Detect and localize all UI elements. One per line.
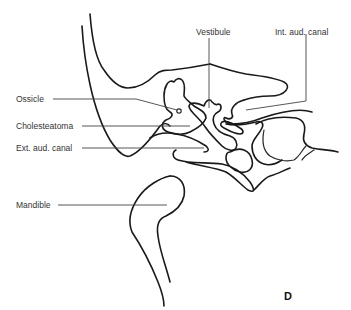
- label-int-aud-canal: Int. aud. canal: [275, 28, 328, 37]
- leader-ossicle: [53, 99, 177, 110]
- lower-bony-wall: [150, 133, 208, 152]
- leader-int-aud-canal: [246, 34, 306, 110]
- label-ossicle: Ossicle: [16, 95, 44, 104]
- int-aud-canal-shape: [224, 100, 312, 124]
- auricle-inner-curve: [90, 14, 210, 88]
- anatomical-diagram: Vestibule Int. aud. canal Ossicle Choles…: [0, 0, 351, 310]
- mastoid-air-cell: [256, 117, 338, 152]
- inner-cell-outline: [263, 130, 306, 161]
- label-vestibule: Vestibule: [196, 28, 231, 37]
- auricle-outer-curve: [82, 26, 170, 156]
- mandible-shape: [130, 176, 170, 306]
- panel-letter: D: [284, 291, 292, 302]
- temporal-bone-upper: [210, 64, 288, 100]
- label-cholesteatoma: Cholesteatoma: [16, 122, 73, 131]
- label-ext-aud-canal: Ext. aud. canal: [16, 144, 72, 153]
- ext-aud-canal-shape: [173, 150, 253, 191]
- ear-cross-section-drawing: [0, 0, 351, 310]
- mastoid-fragment: [302, 150, 314, 160]
- mandible-inner: [157, 176, 184, 282]
- ossicle-shape: [177, 109, 181, 113]
- jugular-region: [254, 168, 290, 190]
- label-mandible: Mandible: [16, 201, 51, 210]
- cochlea-outline: [226, 149, 252, 172]
